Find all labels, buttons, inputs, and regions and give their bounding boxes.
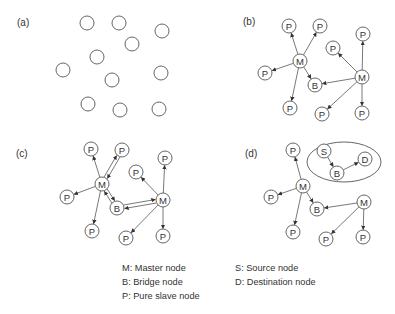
node-empty — [152, 102, 166, 116]
node-letter: M — [98, 179, 106, 190]
arrow-master-to-pure-slave — [331, 207, 359, 234]
node-pure-slave: P — [129, 165, 143, 179]
node-master: M — [293, 54, 307, 68]
arrow-master-to-pure-slave — [93, 156, 100, 177]
arrow-master-to-pure-slave — [131, 205, 158, 233]
node-letter: P — [89, 226, 95, 237]
node-letter: P — [287, 103, 293, 114]
node-letter: P — [330, 43, 336, 54]
node-pure-slave: P — [60, 190, 74, 204]
node-pure-slave: P — [356, 230, 370, 244]
node-circle — [112, 16, 126, 30]
arrow-master-to-pure-slave — [292, 68, 299, 101]
node-bridge: B — [308, 78, 322, 92]
node-letter: B — [314, 204, 320, 215]
node-letter: M — [360, 197, 368, 208]
node-circle — [154, 66, 168, 80]
legend-column-2: S: Source node D: Destination node — [235, 261, 316, 289]
node-empty — [56, 63, 70, 77]
legend-pure-slave: P: Pure slave node — [122, 289, 200, 303]
node-letter: B — [114, 203, 120, 214]
node-letter: P — [290, 227, 296, 238]
node-pure-slave: P — [258, 66, 272, 80]
node-pure-slave: P — [84, 142, 98, 156]
node-circle — [155, 24, 169, 38]
arrow-master-to-bridge — [322, 78, 355, 84]
node-circle — [90, 50, 104, 64]
arrow-master-to-pure-slave — [272, 63, 293, 70]
arrow-source-to-bridge — [328, 157, 334, 167]
node-bridge: B — [330, 166, 344, 180]
node-letter: B — [312, 80, 318, 91]
arrow-master-to-pure-slave — [74, 186, 95, 194]
node-master: M — [357, 195, 371, 209]
node-pure-slave: P — [286, 143, 300, 157]
node-letter: P — [123, 233, 129, 244]
node-master: M — [95, 177, 109, 191]
node-empty — [80, 16, 94, 30]
node-master: M — [355, 70, 369, 84]
legend-bridge: B: Bridge node — [122, 275, 200, 289]
legend-source: S: Source node — [235, 261, 316, 275]
arrow-master-to-pure-slave — [304, 33, 317, 55]
node-empty — [154, 66, 168, 80]
node-letter: M — [296, 56, 304, 67]
legend-column-1: M: Master node B: Bridge node P: Pure sl… — [122, 261, 200, 303]
arrow-master-to-pure-slave — [94, 191, 101, 224]
node-letter: M — [299, 181, 307, 192]
node-circle — [152, 102, 166, 116]
node-bridge: B — [310, 202, 324, 216]
node-empty — [90, 50, 104, 64]
node-circle — [81, 97, 95, 111]
panel-label-a: (a) — [17, 17, 29, 28]
node-circle — [56, 63, 70, 77]
node-letter: P — [290, 145, 296, 156]
node-empty — [125, 37, 139, 51]
panel-label-b: (b) — [243, 16, 255, 27]
node-pure-slave: P — [326, 41, 340, 55]
node-master: M — [156, 193, 170, 207]
node-letter: P — [268, 192, 274, 203]
node-letter: M — [358, 72, 366, 83]
arrow-master-to-pure-slave — [141, 177, 158, 195]
arrow-master-to-pure-slave — [278, 188, 296, 194]
node-pure-slave: P — [319, 232, 333, 246]
node-letter: P — [162, 153, 168, 164]
arrow-master-to-pure-slave — [291, 33, 298, 54]
node-letter: P — [360, 29, 366, 40]
node-letter: M — [159, 195, 167, 206]
arrow-master-to-pure-slave — [362, 42, 363, 71]
node-pure-slave: P — [85, 224, 99, 238]
node-bridge: B — [110, 201, 124, 215]
arrow-master-to-pure-slave — [295, 157, 301, 179]
node-pure-slave: P — [315, 107, 329, 121]
node-letter: B — [334, 168, 340, 179]
node-pure-slave: P — [119, 231, 133, 245]
node-letter: P — [64, 192, 70, 203]
node-pure-slave: P — [264, 190, 278, 204]
node-letter: P — [133, 167, 139, 178]
node-pure-slave: P — [283, 101, 297, 115]
node-pure-slave: P — [282, 19, 296, 33]
node-letter: P — [359, 108, 365, 119]
node-pure-slave: P — [158, 151, 172, 165]
node-pure-slave: P — [356, 27, 370, 41]
arrow-master-to-bridge — [304, 67, 311, 79]
panel-label-c: (c) — [16, 148, 28, 159]
node-pure-slave: P — [156, 229, 170, 243]
panel-labels-layer: (a)(b)(c)(d) — [16, 16, 257, 159]
arrow-bridge-to-destination — [343, 162, 358, 170]
panel-label-d: (d) — [245, 148, 257, 159]
legend-destination: D: Destination node — [235, 275, 316, 289]
arrow-master-to-bridge — [307, 192, 314, 203]
nodes-layer: PPMPBPPPMPPPPMPBPPPMPPPSDBMPBPMPP — [56, 16, 372, 246]
node-pure-slave: P — [115, 143, 129, 157]
node-empty — [113, 103, 127, 117]
node-letter: P — [286, 21, 292, 32]
node-letter: D — [362, 154, 369, 165]
node-letter: P — [319, 109, 325, 120]
node-destination: D — [358, 152, 372, 166]
arrow-bridge-to-master — [104, 191, 111, 203]
arrow-master-to-pure-slave — [163, 166, 164, 194]
node-letter: P — [262, 68, 268, 79]
